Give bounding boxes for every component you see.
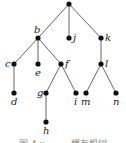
- node-f: [58, 61, 63, 66]
- figure-caption: 图 4.x 一棵有根树: [0, 137, 126, 143]
- edge-l-m: [86, 64, 101, 93]
- label-h: h: [43, 125, 49, 136]
- label-c: c: [5, 58, 11, 69]
- edge-b-f: [38, 38, 61, 64]
- node-i: [73, 90, 78, 95]
- label-k: k: [105, 32, 111, 43]
- label-g: g: [37, 87, 43, 98]
- node-root: [66, 1, 71, 6]
- label-n: n: [113, 96, 119, 107]
- edge-l-n: [101, 64, 116, 93]
- label-e: e: [35, 67, 41, 78]
- node-b: [35, 35, 40, 40]
- label-f: f: [64, 58, 71, 69]
- node-l: [98, 61, 103, 66]
- node-n: [113, 90, 118, 95]
- label-d: d: [11, 96, 17, 107]
- node-d: [11, 90, 16, 95]
- node-j: [66, 35, 71, 40]
- label-b: b: [34, 24, 40, 35]
- label-i: i: [74, 96, 77, 107]
- node-k: [98, 35, 103, 40]
- label-l: l: [105, 58, 108, 69]
- edge-f-g: [46, 64, 61, 93]
- node-labels: b j k c e f l d g i m n h: [5, 24, 119, 136]
- edge-b-c: [14, 38, 38, 64]
- node-c: [11, 61, 16, 66]
- label-m: m: [81, 96, 90, 107]
- label-j: j: [71, 32, 76, 43]
- node-e: [35, 61, 40, 66]
- node-h: [43, 119, 48, 124]
- node-g: [43, 90, 48, 95]
- tree-diagram: b j k c e f l d g i m n h: [0, 0, 126, 143]
- edge-root-b: [38, 4, 69, 38]
- node-m: [83, 90, 88, 95]
